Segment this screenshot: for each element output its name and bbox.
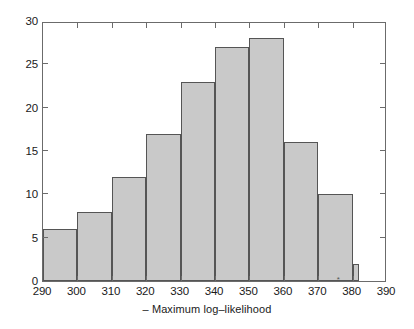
histogram-bar: [249, 38, 283, 281]
y-axis-tick-label: 10: [8, 189, 38, 200]
x-axis-tick-top: [77, 23, 78, 28]
y-axis-tick: [43, 237, 48, 238]
x-axis-tick-label: 390: [366, 285, 406, 297]
histogram-bar: [112, 177, 146, 281]
histogram-bar: [284, 142, 318, 281]
y-axis-tick-label: 30: [8, 16, 38, 27]
x-axis-tick: [181, 276, 182, 281]
x-axis-tick-top: [112, 23, 113, 28]
x-axis-tick-top: [284, 23, 285, 28]
y-axis-tick: [43, 107, 48, 108]
x-axis-tick-top: [215, 23, 216, 28]
y-axis-tick-right: [380, 193, 385, 194]
x-axis-title: – Maximum log–likelihood: [0, 303, 414, 315]
x-axis-tick: [249, 276, 250, 281]
histogram-bar: [43, 229, 77, 281]
histogram-bar: [146, 134, 180, 281]
x-axis-tick-top: [318, 23, 319, 28]
x-axis-tick: [77, 276, 78, 281]
x-axis-tick: [146, 276, 147, 281]
histogram-bar: [77, 212, 111, 281]
x-axis-tick: [112, 276, 113, 281]
y-axis-tick-right: [380, 150, 385, 151]
y-axis-tick-label: 5: [8, 233, 38, 244]
histogram-bar: [353, 264, 360, 281]
x-axis-tick-top: [146, 23, 147, 28]
y-axis-tick-right: [380, 63, 385, 64]
y-axis-tick: [43, 150, 48, 151]
histogram-figure: 051015202530 290300310320330340350360370…: [0, 0, 414, 329]
y-axis-tick: [43, 193, 48, 194]
y-axis-tick-right: [380, 107, 385, 108]
histogram-bar: [215, 47, 249, 281]
x-axis-tick: [284, 276, 285, 281]
histogram-bar: [318, 194, 352, 281]
x-axis-tick-top: [353, 23, 354, 28]
plot-area: *: [42, 22, 386, 282]
y-axis-tick-label: 20: [8, 103, 38, 114]
histogram-bars: [43, 23, 385, 281]
x-axis-tick: [215, 276, 216, 281]
histogram-bar: [181, 82, 215, 281]
y-axis-tick-right: [380, 237, 385, 238]
x-axis-tick-top: [249, 23, 250, 28]
y-axis-tick-label: 15: [8, 146, 38, 157]
x-axis-tick: [353, 276, 354, 281]
y-axis-tick-label: 25: [8, 59, 38, 70]
asterisk-marker: *: [337, 277, 340, 283]
x-axis-tick-top: [181, 23, 182, 28]
y-axis-tick: [43, 63, 48, 64]
x-axis-tick: [318, 276, 319, 281]
